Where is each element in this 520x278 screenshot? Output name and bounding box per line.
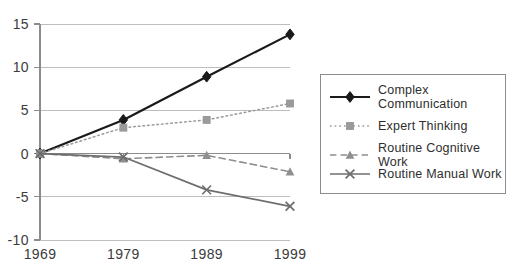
legend-label: Expert Thinking (378, 119, 468, 133)
legend-item-2[interactable]: Expert Thinking (321, 117, 505, 135)
x-axis-tick-labels: 1969197919891999 (24, 246, 307, 262)
legend: Complex CommunicationExpert ThinkingRout… (320, 74, 506, 194)
series-2 (36, 100, 294, 158)
data-series (36, 29, 295, 211)
x-tick-label: 1969 (24, 246, 57, 262)
series-line (40, 154, 290, 172)
legend-item-4[interactable]: Routine Manual Work (321, 165, 505, 183)
x-tick-label: 1979 (107, 246, 140, 262)
axis-lines (40, 24, 290, 240)
legend-swatch-triangle (329, 146, 371, 164)
y-tick-label: 5 (21, 102, 29, 118)
legend-swatch-diamond (329, 88, 371, 106)
data-point-marker (202, 71, 210, 82)
legend-label: Complex Communication (378, 83, 467, 111)
line-chart: 151050-5-10 1969197919891999 Complex Com… (0, 0, 520, 278)
y-tick-label: 15 (13, 16, 29, 32)
series-4 (36, 149, 295, 210)
y-tick-label: 10 (13, 59, 29, 75)
series-line (40, 103, 290, 153)
axis-ticks (34, 24, 290, 240)
data-point-marker (203, 116, 211, 124)
legend-label: Routine Manual Work (378, 167, 502, 181)
data-point-marker (119, 115, 127, 126)
data-point-marker (119, 124, 127, 132)
gridlines (40, 24, 290, 240)
y-tick-label: -5 (16, 189, 29, 205)
x-tick-label: 1999 (274, 246, 307, 262)
y-tick-label: 0 (21, 146, 29, 162)
data-point-marker (286, 29, 294, 40)
y-axis-tick-labels: 151050-5-10 (8, 16, 29, 248)
legend-swatch-square (329, 117, 371, 135)
series-line (40, 154, 290, 207)
data-point-marker (286, 100, 294, 108)
x-tick-label: 1989 (190, 246, 223, 262)
legend-swatch-x (329, 165, 371, 183)
legend-item-1[interactable]: Complex Communication (321, 83, 505, 111)
series-line (40, 34, 290, 153)
series-1 (36, 29, 294, 159)
